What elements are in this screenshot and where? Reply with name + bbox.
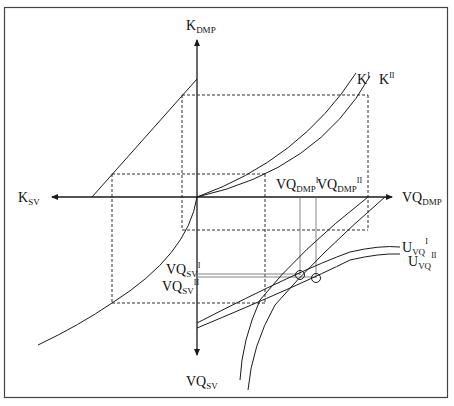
label-vq-sv-i: VQSVI <box>166 261 201 279</box>
curve-lower-i <box>240 197 368 380</box>
label-k-dmp: KDMP <box>186 18 216 35</box>
diagram-frame <box>5 8 448 398</box>
label-vq-dmp-i: VQDMPI <box>276 176 319 194</box>
label-vq-dmp: VQDMP <box>402 190 442 207</box>
four-quadrant-diagram: KDMP KSV VQDMP VQSV KI KII UVQI UVQII VQ… <box>0 0 454 406</box>
label-vq-sv: VQSV <box>186 374 218 391</box>
curve-lower-ii <box>248 197 385 390</box>
label-vq-sv-ii: VQSVII <box>162 278 199 296</box>
label-vq-dmp-ii: VQDMPII <box>317 176 362 194</box>
label-k-sv: KSV <box>18 190 40 207</box>
transfer-line <box>92 79 197 197</box>
dashed-guides <box>112 95 368 303</box>
label-k-i: KI <box>357 71 370 87</box>
label-k-ii: KII <box>379 71 395 87</box>
curve-u-vq-ii <box>197 254 400 328</box>
